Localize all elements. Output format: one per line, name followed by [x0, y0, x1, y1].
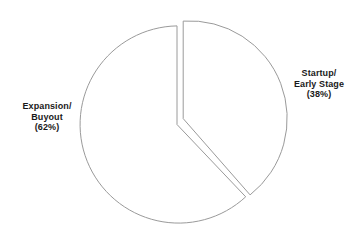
- pie-label-startup-percent: (38%): [279, 89, 359, 100]
- pie-label-startup-early-stage: Startup/ Early Stage (38%): [279, 68, 359, 100]
- pie-label-startup-line2: Early Stage: [279, 79, 359, 90]
- pie-label-expansion-line1: Expansion/: [8, 101, 86, 112]
- pie-chart: Startup/ Early Stage (38%) Expansion/ Bu…: [0, 0, 359, 234]
- pie-label-expansion-line2: Buyout: [8, 112, 86, 123]
- pie-label-expansion-percent: (62%): [8, 122, 86, 133]
- pie-label-expansion-buyout: Expansion/ Buyout (62%): [8, 101, 86, 133]
- pie-label-startup-line1: Startup/: [279, 68, 359, 79]
